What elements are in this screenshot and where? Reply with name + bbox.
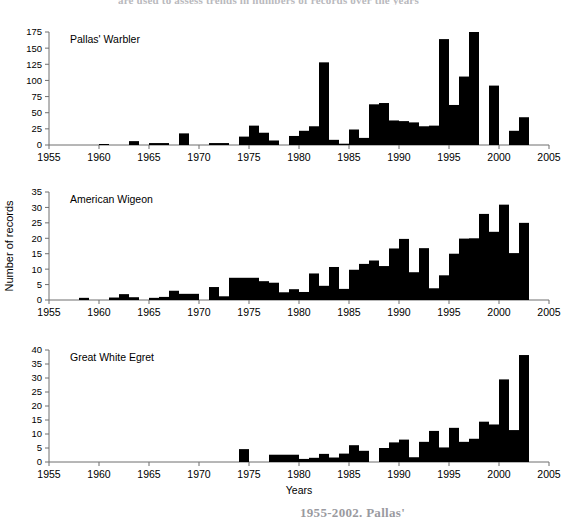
bar [469, 439, 479, 462]
bar [339, 454, 349, 462]
y-tick-label: 35 [31, 186, 42, 197]
y-tick-label: 5 [37, 442, 42, 453]
bar [309, 273, 319, 300]
bar [319, 286, 329, 300]
bar [329, 458, 339, 462]
y-tick-label: 25 [31, 386, 42, 397]
x-tick-label: 2000 [487, 306, 511, 318]
bar [219, 143, 229, 145]
x-tick-label: 1955 [37, 306, 61, 318]
bar [319, 454, 329, 462]
series-title-pallas-warbler: Pallas' Warbler [70, 33, 140, 45]
bar [299, 131, 309, 145]
x-tick-label: 1955 [37, 468, 61, 480]
bar [409, 272, 419, 300]
bar [289, 455, 299, 462]
bar [419, 126, 429, 145]
bar [429, 126, 439, 145]
chart-panel-great-white-egret: 0510152025303540195519601965197019751980… [0, 340, 580, 505]
figure-caption-top: are used to assess trends in numbers of … [118, 0, 478, 5]
y-tick-label: 10 [31, 428, 42, 439]
bar [349, 270, 359, 300]
bar [469, 32, 479, 145]
bar [309, 458, 319, 462]
x-tick-label: 2000 [487, 468, 511, 480]
bar [129, 141, 139, 145]
x-tick-label: 1980 [287, 306, 311, 318]
bar [99, 144, 109, 145]
bar [209, 287, 219, 300]
bar [369, 261, 379, 300]
bar [359, 264, 369, 300]
bar [189, 294, 199, 300]
bar [279, 455, 289, 462]
x-tick-label: 1960 [87, 151, 111, 163]
bar [149, 298, 159, 300]
bar [449, 105, 459, 145]
x-tick-label: 1995 [437, 151, 461, 163]
bar-series [239, 355, 529, 462]
bar [159, 297, 169, 300]
bar [169, 291, 179, 300]
bar [289, 136, 299, 145]
bar [379, 266, 389, 300]
y-axis-label: Number of records [3, 200, 15, 292]
figure-caption-bottom: 1955-2002. Pallas' [300, 505, 580, 519]
bar [509, 131, 519, 145]
y-tick-label: 30 [31, 202, 42, 213]
bar [489, 424, 499, 462]
bar [459, 77, 469, 145]
bar [269, 140, 279, 145]
bar [439, 39, 449, 145]
y-tick-label: 15 [31, 414, 42, 425]
bar [149, 143, 159, 145]
bar [229, 278, 239, 300]
bar [359, 451, 369, 462]
y-tick-label: 0 [37, 456, 42, 467]
bar [319, 62, 329, 145]
x-tick-label: 1985 [337, 468, 361, 480]
bar [339, 144, 349, 145]
bar-series [99, 32, 529, 145]
x-tick-label: 1965 [137, 468, 161, 480]
x-tick-label: 1990 [387, 151, 411, 163]
x-tick-label: 1980 [287, 151, 311, 163]
bar [459, 239, 469, 300]
bar-series [79, 205, 529, 300]
x-tick-label: 1960 [87, 306, 111, 318]
bar [439, 447, 449, 462]
x-axis-label: Years [286, 484, 312, 496]
bar [409, 122, 419, 145]
bar [449, 428, 459, 462]
bar [109, 298, 119, 300]
x-tick-label: 1965 [137, 306, 161, 318]
bar [249, 278, 259, 300]
bar [379, 448, 389, 462]
bar [299, 292, 309, 300]
bar [179, 133, 189, 145]
bar-chart-pallas-warbler: 0255075100125150175195519601965197019751… [0, 22, 580, 177]
bar [509, 430, 519, 462]
x-tick-label: 1995 [437, 468, 461, 480]
x-tick-label: 1970 [187, 306, 211, 318]
bar [499, 205, 509, 300]
bar [489, 232, 499, 300]
bar [249, 126, 259, 145]
bar [489, 86, 499, 145]
bar [239, 137, 249, 145]
bar [439, 275, 449, 300]
x-tick-label: 2005 [537, 468, 561, 480]
bar [429, 431, 439, 462]
bar [479, 422, 489, 462]
series-title-great-white-egret: Great White Egret [70, 351, 154, 363]
bar [409, 457, 419, 462]
bar [329, 267, 339, 300]
bar [389, 120, 399, 145]
bar [519, 117, 529, 145]
bar [119, 294, 129, 300]
chart-panel-pallas-warbler: 0255075100125150175195519601965197019751… [0, 22, 580, 177]
bar [259, 133, 269, 145]
x-tick-label: 1965 [137, 151, 161, 163]
y-tick-label: 125 [26, 59, 42, 70]
